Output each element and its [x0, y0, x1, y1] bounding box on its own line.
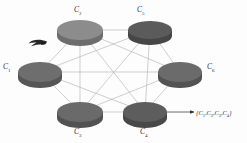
graph-node-c2[interactable] [57, 20, 103, 46]
graph-node-c1[interactable] [18, 62, 62, 88]
graph-node-c6[interactable] [158, 62, 202, 88]
node-label-c3: C3 [74, 127, 82, 138]
node-label-c4: C4 [140, 127, 148, 138]
cluster-set-annotation: {C1,C2,C3,C4} [196, 109, 231, 118]
node-label-c5: C5 [137, 5, 145, 16]
graph-node-c4[interactable] [123, 102, 167, 128]
node-top [57, 102, 103, 122]
node-top [57, 20, 103, 40]
figure-canvas: C1 C2 C3 C4 C5 C6 {C1,C2,C3,C4} [0, 0, 247, 143]
node-label-c1: C1 [3, 62, 11, 73]
node-top [158, 62, 202, 82]
node-top [128, 21, 172, 39]
graph-node-c3[interactable] [57, 102, 103, 128]
graph-node-c5[interactable] [128, 21, 172, 45]
node-label-c6: C6 [207, 62, 215, 73]
node-top [123, 102, 167, 122]
pointer-marker [29, 40, 48, 47]
node-top [18, 62, 62, 82]
node-label-c2: C2 [74, 5, 82, 16]
